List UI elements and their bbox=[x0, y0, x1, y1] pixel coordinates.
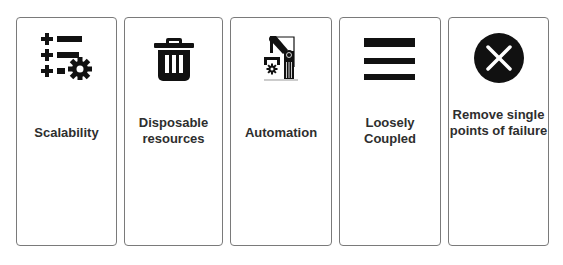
card-label: Remove single points of failure bbox=[449, 107, 548, 139]
card-label: Automation bbox=[231, 125, 331, 141]
three-bars-icon bbox=[364, 38, 416, 82]
card-disposable-resources: Disposable resources bbox=[124, 17, 223, 246]
card-label: Scalability bbox=[17, 125, 116, 141]
close-circle-icon bbox=[473, 32, 525, 84]
card-label: Loosely Coupled bbox=[340, 115, 440, 147]
card-label: Disposable resources bbox=[125, 115, 222, 147]
trash-can-icon bbox=[154, 36, 194, 82]
scalability-list-gear-icon bbox=[41, 32, 93, 80]
card-scalability: Scalability bbox=[16, 17, 117, 246]
card-remove-single-points-of-failure: Remove single points of failure bbox=[448, 17, 549, 246]
card-loosely-coupled: Loosely Coupled bbox=[339, 17, 441, 246]
robotic-arm-icon bbox=[262, 35, 300, 83]
card-automation: Automation bbox=[230, 17, 332, 246]
